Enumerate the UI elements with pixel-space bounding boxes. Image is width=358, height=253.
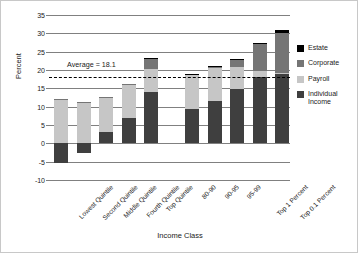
bar-segment (122, 84, 136, 117)
bar-stack[interactable] (144, 15, 158, 180)
legend-label: Estate (308, 44, 328, 52)
legend-item[interactable]: Corporate (297, 59, 357, 67)
legend-label: Individual Income (308, 90, 338, 107)
legend-item[interactable]: Estate (297, 44, 357, 52)
y-axis-tick-label: 15 (37, 85, 45, 92)
y-axis-tick-label: 35 (37, 12, 45, 19)
x-axis-tick-label: 95-99 (246, 184, 263, 201)
bar-segment (144, 92, 158, 143)
x-axis-tick-label: 90-95 (224, 184, 241, 201)
legend-swatch (297, 60, 304, 67)
legend-swatch (297, 45, 304, 52)
x-axis-title: Income Class (1, 232, 358, 240)
y-axis-tick-label: -5 (39, 158, 45, 165)
average-line (49, 77, 290, 78)
y-axis-tick-mark (46, 162, 49, 163)
y-axis-title: Percent (15, 53, 23, 79)
chart-figure: Percent Income Class 35302520151050-5-10… (0, 0, 358, 253)
legend-swatch (297, 91, 304, 98)
y-axis-tick-label: 0 (41, 140, 45, 147)
bar-segment (253, 71, 267, 77)
legend-item[interactable]: Payroll (297, 75, 357, 83)
bar-segment (144, 69, 158, 92)
legend-label: Payroll (308, 75, 329, 83)
y-axis-tick-mark (46, 15, 49, 16)
y-axis-tick-mark (46, 125, 49, 126)
bar-segment (144, 58, 158, 59)
bar-segment (253, 44, 267, 70)
plot-area: 35302520151050-5-10Average = 18.1 (49, 15, 290, 180)
legend-swatch (297, 76, 304, 83)
bar-stack[interactable] (185, 15, 199, 180)
y-axis-tick-mark (46, 180, 49, 181)
bar-stack[interactable] (230, 15, 244, 180)
bar-segment (275, 73, 289, 74)
bar-stack[interactable] (253, 15, 267, 180)
bar-stack[interactable] (275, 15, 289, 180)
bar-stack[interactable] (77, 15, 91, 180)
y-axis-tick-mark (46, 33, 49, 34)
bar-segment (208, 101, 222, 144)
bar-segment (275, 33, 289, 73)
y-axis-tick-mark (46, 70, 49, 71)
bar-segment (208, 66, 222, 68)
chart-legend: EstateCorporatePayrollIndividual Income (297, 44, 357, 113)
y-axis-tick-label: -10 (35, 177, 45, 184)
bar-segment (230, 89, 244, 144)
legend-label: Corporate (308, 59, 339, 67)
y-axis-tick-mark (46, 52, 49, 53)
y-axis-tick-label: 10 (37, 103, 45, 110)
bar-stack[interactable] (122, 15, 136, 180)
legend-item[interactable]: Individual Income (297, 90, 357, 107)
y-axis-tick-label: 20 (37, 67, 45, 74)
bar-segment (230, 59, 244, 60)
x-axis-tick-label: 80-90 (201, 184, 218, 201)
y-axis-tick-label: 30 (37, 30, 45, 37)
bar-segment (208, 68, 222, 101)
bar-segment (54, 143, 68, 163)
bar-segment (144, 59, 158, 69)
bar-stack[interactable] (54, 15, 68, 180)
y-axis-tick-label: 25 (37, 48, 45, 55)
bar-stack[interactable] (208, 15, 222, 180)
bar-segment (230, 60, 244, 66)
bar-segment (122, 118, 136, 144)
bar-stack[interactable] (99, 15, 113, 180)
bar-segment (185, 109, 199, 143)
bar-segment (253, 77, 267, 144)
bar-segment (99, 132, 113, 144)
bar-segment (185, 74, 199, 75)
y-axis-tick-mark (46, 143, 49, 144)
y-axis-tick-mark (46, 107, 49, 108)
bar-segment (54, 99, 68, 143)
bar-segment (122, 84, 136, 85)
bar-segment (253, 43, 267, 45)
average-label: Average = 18.1 (67, 61, 116, 68)
bar-segment (185, 75, 199, 109)
bar-segment (275, 30, 289, 33)
bar-segment (77, 102, 91, 143)
bar-segment (99, 98, 113, 132)
y-axis-tick-mark (46, 88, 49, 89)
bar-segment (275, 74, 289, 143)
gridline (49, 180, 290, 181)
y-axis-tick-label: 5 (41, 122, 45, 129)
bar-segment (77, 143, 91, 153)
